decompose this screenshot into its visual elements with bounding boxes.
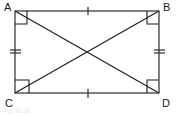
vertex-label-a: A: [4, 2, 11, 13]
right-angle-marker-b: [147, 11, 159, 24]
rectangle-diagram: [0, 0, 178, 116]
right-angle-marker-d: [147, 80, 159, 93]
right-angle-marker-a: [15, 11, 27, 24]
vertex-label-d: D: [162, 98, 170, 109]
vertex-label-b: B: [163, 2, 170, 13]
figure-caption: Fig. 10.26: [3, 108, 30, 114]
